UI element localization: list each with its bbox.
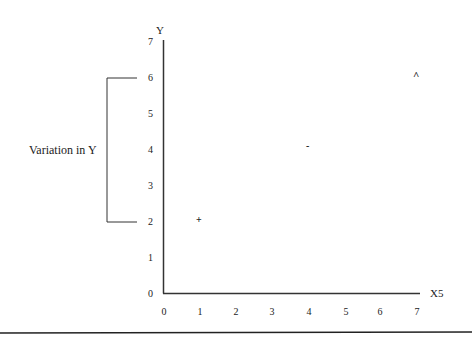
bracket-label: Variation in Y (29, 143, 97, 158)
x-tick-5: 5 (339, 307, 353, 317)
x-tick-7: 7 (410, 307, 424, 317)
data-point-2: - (306, 141, 309, 151)
y-tick-5: 5 (139, 109, 153, 119)
x-tick-3: 3 (265, 307, 279, 317)
y-tick-6: 6 (139, 73, 153, 83)
y-axis-label: Y (156, 24, 164, 36)
y-tick-7: 7 (139, 37, 153, 47)
y-tick-2: 2 (139, 217, 153, 227)
x-tick-1: 1 (193, 307, 207, 317)
y-tick-3: 3 (139, 181, 153, 191)
variation-bracket (107, 78, 137, 222)
y-tick-4: 4 (139, 145, 153, 155)
x-tick-4: 4 (302, 307, 316, 317)
chart-canvas (0, 0, 472, 344)
x-tick-2: 2 (229, 307, 243, 317)
x-axis-label: X5 (430, 287, 443, 299)
y-tick-0: 0 (139, 289, 153, 299)
bottom-rule (0, 332, 472, 333)
y-tick-1: 1 (139, 253, 153, 263)
x-tick-6: 6 (373, 307, 387, 317)
data-point-3: ^ (413, 70, 419, 80)
x-tick-0: 0 (157, 307, 171, 317)
data-point-1: + (196, 215, 202, 225)
